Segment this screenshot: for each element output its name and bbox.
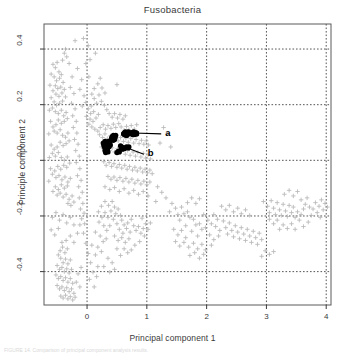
figure-container: Fusobacteria 01234 0.40.20.0-0.2-0.4 Pri…	[0, 0, 345, 357]
x-tick-label: 1	[135, 312, 159, 321]
x-axis-label: Principal component 1	[0, 333, 345, 343]
axis-ticks	[40, 49, 326, 309]
y-tick-label: -0.4	[15, 257, 24, 283]
annotation-label-b: b	[148, 147, 154, 158]
x-tick-label: 0	[75, 312, 99, 321]
figure-caption: FIGURE 14. Comparison of principal compo…	[4, 347, 342, 353]
y-axis-label: Principle component 2	[17, 92, 27, 232]
x-tick-label: 3	[254, 312, 278, 321]
y-tick-label: 0.4	[15, 35, 24, 61]
page-title: Fusobacteria	[0, 4, 345, 15]
x-tick-label: 2	[195, 312, 219, 321]
data-points	[47, 36, 330, 302]
grid-lines	[44, 24, 331, 305]
annotation-label-a: a	[165, 127, 170, 138]
x-tick-label: 4	[314, 312, 338, 321]
scatter-plot-canvas	[0, 0, 345, 357]
